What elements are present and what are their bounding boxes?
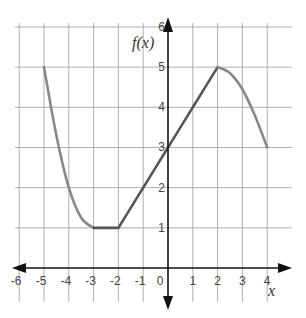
- function-graph: -6-5-4-3-2-101234123456 f(x) x: [0, 0, 306, 318]
- x-tick-label: 1: [189, 274, 196, 288]
- y-tick-label: 4: [158, 100, 165, 114]
- x-tick-label: -5: [36, 274, 47, 288]
- y-tick-label: 5: [158, 60, 165, 74]
- x-tick-label: -6: [11, 274, 22, 288]
- y-axis-down-arrow-icon: [163, 296, 173, 310]
- x-axis-title: x: [267, 282, 275, 299]
- y-tick-label: 1: [158, 221, 165, 235]
- y-tick-label: 3: [158, 140, 165, 154]
- y-axis-title: f(x): [132, 34, 154, 52]
- y-tick-label: 6: [158, 20, 165, 34]
- y-tick-label: 2: [158, 181, 165, 195]
- x-tick-label: -2: [110, 274, 121, 288]
- x-tick-label: -3: [85, 274, 96, 288]
- x-tick-label: -4: [60, 274, 71, 288]
- grid: [15, 23, 292, 302]
- x-tick-label: 2: [214, 274, 221, 288]
- x-tick-label: 3: [239, 274, 246, 288]
- axes: [12, 17, 292, 310]
- tick-labels: -6-5-4-3-2-101234123456: [11, 20, 271, 288]
- x-tick-label: 0: [157, 274, 164, 288]
- x-tick-label: -1: [135, 274, 146, 288]
- x-axis-right-arrow-icon: [278, 263, 292, 273]
